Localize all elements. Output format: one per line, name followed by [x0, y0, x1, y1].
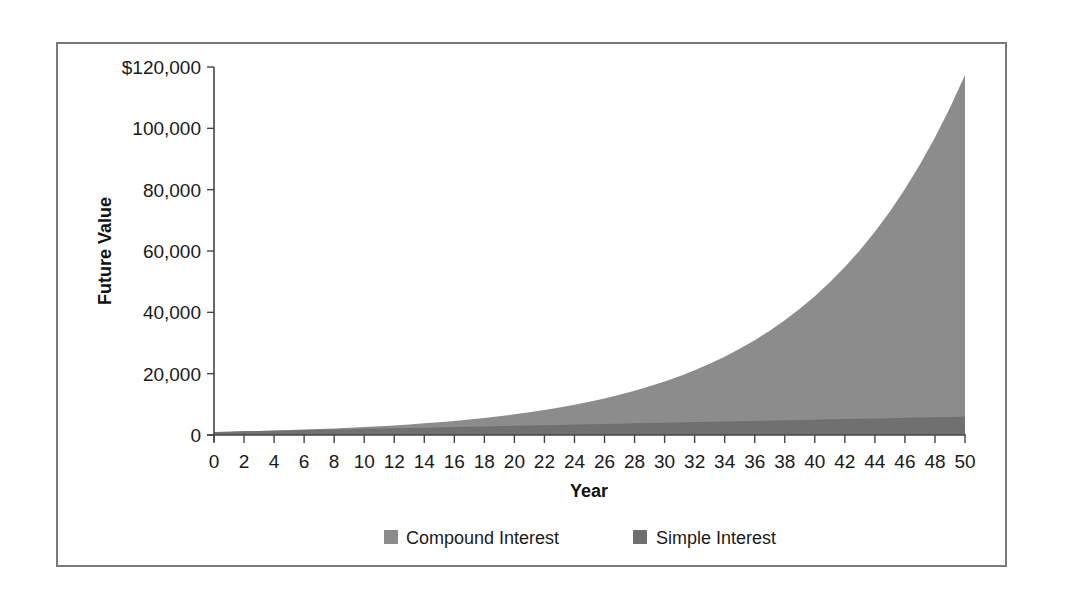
y-tick-label: 100,000 [132, 118, 201, 139]
x-tick-label: 42 [834, 451, 855, 472]
area-compound-interest [214, 75, 965, 435]
x-tick-label: 46 [894, 451, 915, 472]
legend-item-simple-interest: Simple Interest [633, 528, 776, 548]
y-tick-label: 20,000 [143, 364, 201, 385]
legend-swatch-compound [384, 530, 398, 544]
y-tick-label: 60,000 [143, 241, 201, 262]
x-tick-label: 12 [384, 451, 405, 472]
x-tick-label: 20 [504, 451, 525, 472]
x-tick-label: 40 [804, 451, 825, 472]
legend-item-compound-interest: Compound Interest [384, 528, 559, 548]
x-tick-label: 10 [354, 451, 375, 472]
x-tick-label: 18 [474, 451, 495, 472]
y-tick-label: 80,000 [143, 180, 201, 201]
x-tick-label: 8 [329, 451, 340, 472]
area-chart: 020,00040,00060,00080,000100,000$120,000… [0, 0, 1067, 606]
x-axis-title: Year [570, 481, 608, 501]
legend-swatch-simple [633, 530, 647, 544]
x-tick-label: 24 [564, 451, 586, 472]
y-tick-label: 0 [190, 425, 201, 446]
x-tick-label: 4 [269, 451, 280, 472]
x-tick-label: 36 [744, 451, 765, 472]
y-tick-label: 40,000 [143, 302, 201, 323]
x-tick-label: 48 [924, 451, 945, 472]
x-tick-label: 6 [299, 451, 310, 472]
y-tick-label: $120,000 [122, 57, 201, 78]
x-tick-label: 30 [654, 451, 675, 472]
x-tick-label: 50 [954, 451, 975, 472]
x-tick-label: 34 [714, 451, 736, 472]
legend-label-compound: Compound Interest [406, 528, 559, 548]
y-axis-ticks: 020,00040,00060,00080,000100,000$120,000 [122, 57, 214, 446]
x-tick-label: 16 [444, 451, 465, 472]
legend-label-simple: Simple Interest [656, 528, 776, 548]
plot-areas [214, 75, 965, 435]
x-tick-label: 2 [239, 451, 250, 472]
x-tick-label: 28 [624, 451, 645, 472]
x-tick-label: 22 [534, 451, 555, 472]
x-tick-label: 0 [209, 451, 220, 472]
x-tick-label: 38 [774, 451, 795, 472]
y-axis-title: Future Value [95, 197, 115, 305]
x-tick-label: 14 [414, 451, 436, 472]
x-axis-ticks: 0246810121416182022242628303234363840424… [209, 435, 976, 472]
x-tick-label: 32 [684, 451, 705, 472]
legend: Compound Interest Simple Interest [384, 528, 776, 548]
x-tick-label: 44 [864, 451, 886, 472]
x-tick-label: 26 [594, 451, 615, 472]
